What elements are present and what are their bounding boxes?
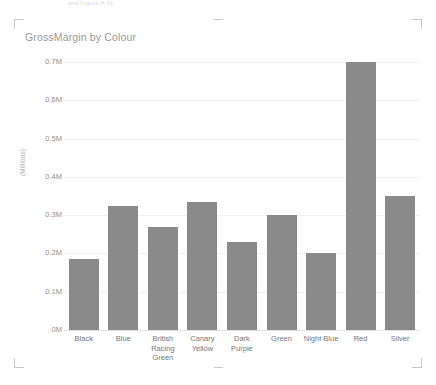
bar-blue[interactable] [108,206,138,330]
y-axis-tick-label: 0.1M [30,288,62,296]
gridline [64,330,420,331]
bar-dark-purple[interactable] [227,242,257,330]
y-axis-tick-label: 0.6M [30,96,62,104]
bar-british-racing-green[interactable] [148,227,178,330]
y-axis-tick-label: 0.5M [30,135,62,143]
x-axis-tick-label: Red [341,334,381,363]
x-axis-tick-label: Canary Yellow [183,334,223,363]
y-axis-tick-label: 0.7M [30,58,62,66]
bar-slot [380,62,420,330]
x-axis-tick-label: British Racing Green [143,334,183,363]
x-axis-tick-label: Night Blue [301,334,341,363]
y-axis-tick-label: 0M [30,326,62,334]
x-axis-tick-label: Black [64,334,104,363]
x-axis-tick-label: Blue [104,334,144,363]
x-axis-tick-label: Dark Purple [222,334,262,363]
y-axis-title: (Millions) [19,106,26,176]
bar-canary-yellow[interactable] [187,202,217,330]
bar-slot [301,62,341,330]
y-axis-tick-label: 0.4M [30,173,62,181]
bar-slot [64,62,104,330]
bar-slot [262,62,302,330]
bar-green[interactable] [267,215,297,330]
x-axis-tick-labels: BlackBlueBritish Racing GreenCanary Yell… [64,334,420,363]
bar-slot [104,62,144,330]
x-axis-tick-label: Silver [380,334,420,363]
bar-night-blue[interactable] [306,253,336,330]
y-axis-tick-label: 0.2M [30,249,62,257]
bar-silver[interactable] [385,196,415,330]
chart-plot-area[interactable]: (Millions) 0M0.1M0.2M0.3M0.4M0.5M0.6M0.7… [0,0,436,385]
y-axis-tick-label: 0.3M [30,211,62,219]
bar-series [64,62,420,330]
bar-red[interactable] [346,62,376,330]
bar-slot [222,62,262,330]
x-axis-tick-label: Green [262,334,302,363]
bar-black[interactable] [69,259,99,330]
bar-slot [183,62,223,330]
bar-slot [341,62,381,330]
bar-slot [143,62,183,330]
